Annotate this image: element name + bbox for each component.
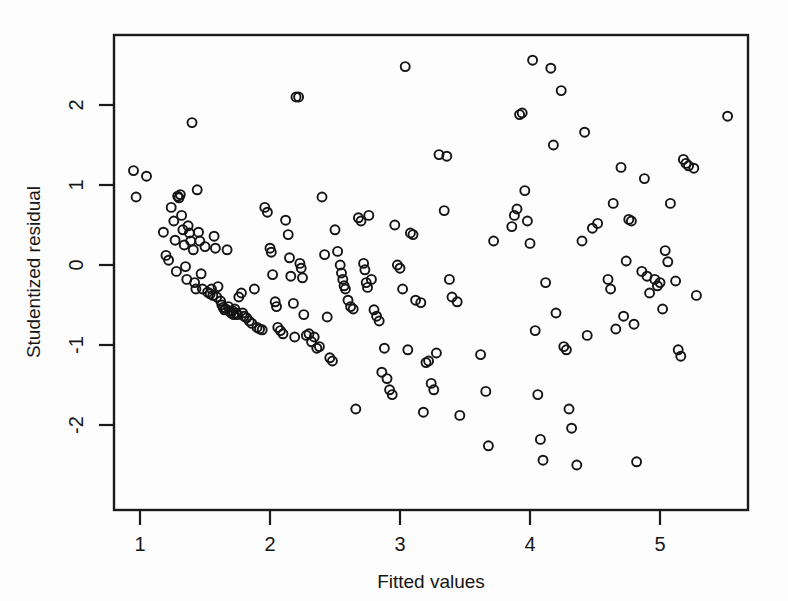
x-tick-label-2: 2 xyxy=(264,533,275,555)
y-tick-label-one: 1 xyxy=(65,179,87,190)
scatter-plot-figure: 1 2 3 4 5 -2 -1 0 1 2 Fitted values Stud… xyxy=(0,0,788,601)
y-tick-label-zero: 0 xyxy=(65,259,87,270)
residual-vs-fitted-chart: 1 2 3 4 5 -2 -1 0 1 2 Fitted values Stud… xyxy=(0,0,788,601)
y-tick-label-minus2: -2 xyxy=(65,416,87,434)
y-axis-title: Studentized residual xyxy=(23,186,44,358)
x-tick-label-3: 3 xyxy=(394,533,405,555)
x-tick-label-5: 5 xyxy=(654,533,665,555)
x-tick-label-4: 4 xyxy=(524,533,535,555)
x-tick-label-1: 1 xyxy=(134,533,145,555)
y-tick-label-minus1: -1 xyxy=(65,336,87,354)
x-axis-title: Fitted values xyxy=(377,571,485,592)
y-tick-label-two: 2 xyxy=(65,99,87,110)
